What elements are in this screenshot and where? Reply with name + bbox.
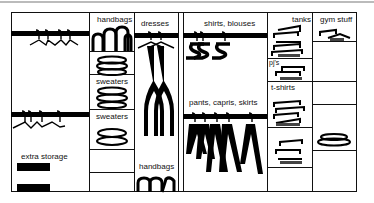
- outer-right-wall: [356, 12, 357, 192]
- handbags-icon: [136, 175, 176, 192]
- shelf: [267, 167, 312, 168]
- dresses-icon: [136, 30, 176, 140]
- shirts-icon: [186, 30, 246, 60]
- tshirts-icon: [270, 101, 310, 127]
- shelf: [267, 127, 312, 128]
- sweaters-icon: [93, 127, 131, 147]
- storage-box: [17, 163, 50, 171]
- divider-gym-left: [312, 12, 313, 192]
- label-tanks: tanks: [292, 15, 311, 24]
- tanks-icon: [270, 24, 310, 58]
- shelf: [312, 81, 357, 82]
- shelf: [89, 51, 134, 52]
- divider-shelves-right: [134, 12, 135, 192]
- label-shirts-blouses: shirts, blouses: [204, 19, 255, 28]
- closet-diagram: extra storage handbags sweaters sweaters…: [0, 0, 374, 203]
- shelf: [89, 172, 134, 173]
- divider-dresses-right: [178, 12, 179, 192]
- storage-box: [17, 184, 50, 192]
- pjs-icon: [272, 65, 308, 81]
- label-pants-capris-skirts: pants, capris, skirts: [189, 98, 257, 107]
- label-extra-storage: extra storage: [21, 152, 68, 161]
- label-handbags-bottom: handbags: [139, 162, 174, 171]
- gym-towels-icon: [314, 132, 354, 148]
- label-handbags-top: handbags: [97, 15, 132, 24]
- handbags-icon: [91, 25, 133, 51]
- divider-tanks-left: [267, 12, 268, 192]
- outer-bottom-wall: [11, 191, 357, 192]
- shelf: [267, 81, 312, 82]
- shelf: [89, 149, 134, 150]
- shelf: [312, 104, 357, 105]
- sweaters-icon: [93, 86, 131, 110]
- label-sweaters-2: sweaters: [96, 112, 128, 121]
- tshirts-icon: [272, 140, 308, 166]
- label-gym-stuff: gym stuff: [320, 15, 352, 24]
- hangers-icon: [28, 28, 83, 50]
- sweaters-icon: [93, 55, 131, 75]
- outer-left-wall: [11, 12, 12, 192]
- shelf: [312, 150, 357, 151]
- outer-top-wall: [11, 12, 357, 13]
- divider-shelves-left: [89, 12, 90, 192]
- pants-icon: [184, 111, 266, 176]
- gym-stuff-icon: [318, 28, 354, 42]
- hangers-icon: [12, 109, 67, 131]
- label-t-shirts: t-shirts: [271, 83, 295, 92]
- label-sweaters-1: sweaters: [96, 77, 128, 86]
- label-dresses: dresses: [141, 19, 169, 28]
